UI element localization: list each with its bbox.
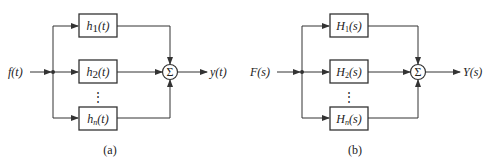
output-label-b: Y(s) <box>463 65 482 79</box>
caption-a: (a) <box>103 143 116 157</box>
block-h2-label: h2(t) <box>87 65 110 80</box>
ellipsis-a: ⋮ <box>92 90 104 104</box>
sigma-icon-a: Σ <box>167 65 174 79</box>
block-H2-label: H2(s) <box>335 65 361 80</box>
input-label-b: F(s) <box>249 65 270 79</box>
block-H1-label: H1(s) <box>335 19 361 34</box>
sigma-icon-b: Σ <box>415 65 422 79</box>
output-label-a: y(t) <box>209 65 227 79</box>
diagram-b: F(s) H1(s) H2(s) ⋮ Hn(s) Σ Y(s) (b) <box>249 14 482 157</box>
input-label-a: f(t) <box>8 65 23 79</box>
caption-b: (b) <box>348 143 362 157</box>
feed-1-a <box>117 26 170 64</box>
feed-1-b <box>368 26 418 64</box>
block-Hn-label: Hn(s) <box>335 112 361 127</box>
block-hn-label: hn(t) <box>87 112 108 127</box>
diagram-a: f(t) h1(t) h2(t) ⋮ hn(t) Σ y(t) (a) <box>8 14 227 157</box>
feed-n-b <box>368 80 418 118</box>
feed-n-a <box>117 80 170 118</box>
ellipsis-b: ⋮ <box>343 90 355 104</box>
block-h1-label: h1(t) <box>87 19 110 34</box>
